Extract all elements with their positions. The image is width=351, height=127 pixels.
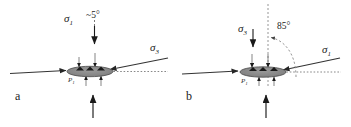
panel-b-sigma1-line (283, 58, 340, 70)
panel-b-graphics (182, 4, 341, 118)
panel-a-label: a (15, 90, 20, 102)
panel-b-sigma3-label: σ3 (238, 23, 247, 37)
panel-a-angle-label: ~5° (86, 11, 100, 21)
panel-b-label: b (186, 90, 192, 102)
panel-a-sigma3-line (110, 58, 168, 70)
panel-b-inclusion-label: P1 (241, 78, 248, 86)
panel-b-left-plane-line (182, 71, 238, 74)
panel-b-sigma1-label: σ1 (322, 44, 331, 58)
panel-b-sigma1-subscript: 1 (327, 50, 331, 58)
panel-a-sigma3-subscript: 3 (155, 48, 159, 56)
panel-b-down-load-arrows (252, 54, 268, 68)
panel-a-down-load-arrows (79, 53, 95, 67)
panel-b-inclusion-subscript: 1 (245, 81, 248, 86)
panel-a-inclusion-subscript: 1 (72, 80, 75, 85)
panel-b-up-load-arrows (259, 77, 274, 86)
panel-a-inclusion-ellipse (67, 66, 113, 76)
panel-a-sigma3-label: σ3 (150, 42, 159, 56)
panel-a-graphics (10, 20, 168, 118)
panel-b-inclusion-ellipse (240, 67, 286, 77)
panel-a-sigma1-subscript: 1 (69, 19, 73, 27)
figure-canvas: σ1 ~5° σ3 P1 a σ3 85° σ1 P1 b (0, 0, 351, 127)
panel-a-up-load-arrows (86, 76, 101, 86)
panel-a-sigma1-label: σ1 (64, 13, 73, 27)
panel-b-sigma3-subscript: 3 (243, 29, 247, 37)
diagram-svg (0, 0, 351, 127)
panel-a-inclusion-label: P1 (68, 77, 75, 85)
panel-a-left-plane-line (10, 71, 66, 74)
panel-b-angle-label: 85° (277, 22, 290, 32)
